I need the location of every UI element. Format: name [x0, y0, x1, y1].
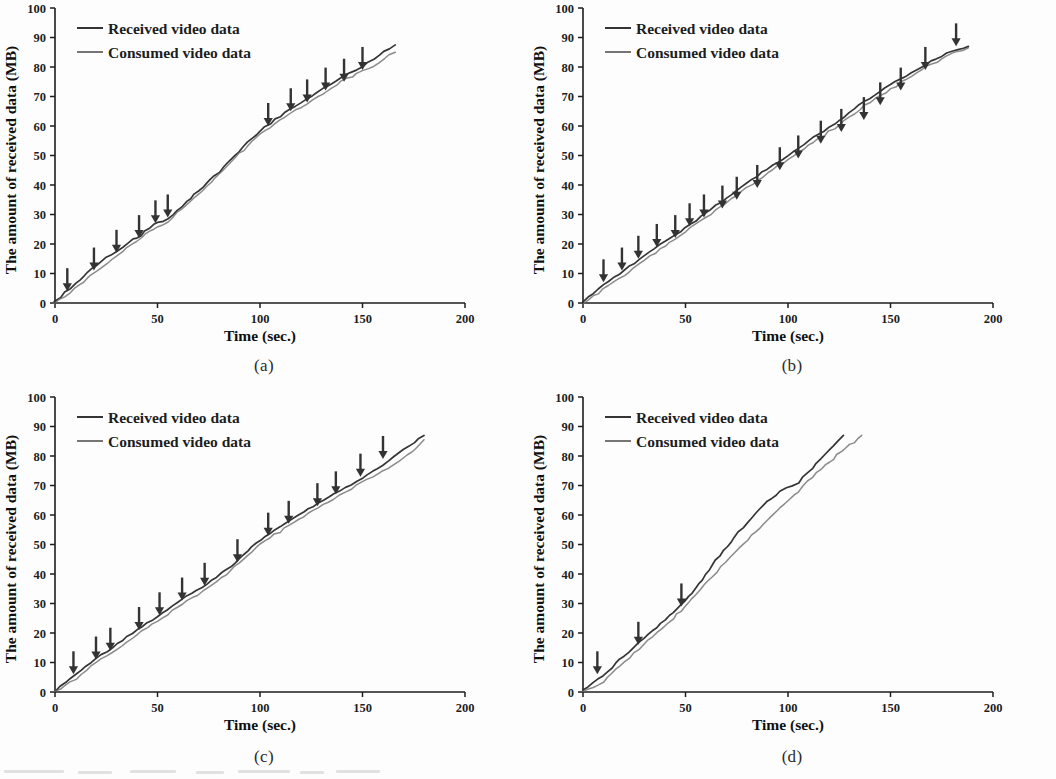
- svg-text:0: 0: [40, 297, 46, 311]
- svg-text:100: 100: [251, 312, 270, 326]
- svg-text:20: 20: [562, 627, 575, 641]
- svg-text:10: 10: [34, 656, 47, 670]
- svg-text:60: 60: [562, 509, 575, 523]
- svg-text:80: 80: [34, 450, 47, 464]
- svg-text:100: 100: [555, 391, 574, 405]
- svg-text:60: 60: [562, 120, 575, 134]
- svg-text:70: 70: [562, 90, 575, 104]
- svg-text:30: 30: [562, 597, 575, 611]
- svg-text:90: 90: [34, 420, 47, 434]
- svg-text:0: 0: [580, 701, 586, 715]
- plot-area-a: 1009080706050403020100050100150200Receiv…: [0, 0, 528, 356]
- svg-text:90: 90: [562, 420, 575, 434]
- svg-text:20: 20: [562, 238, 575, 252]
- svg-text:Consumed video data: Consumed video data: [636, 433, 779, 450]
- svg-text:50: 50: [679, 701, 692, 715]
- svg-text:60: 60: [34, 509, 47, 523]
- svg-text:80: 80: [34, 61, 47, 75]
- chart-panel-c: The amount of received data (MB) Time (s…: [0, 389, 528, 779]
- svg-text:70: 70: [34, 479, 47, 493]
- svg-text:200: 200: [456, 312, 475, 326]
- svg-text:200: 200: [456, 701, 475, 715]
- svg-text:50: 50: [34, 149, 47, 163]
- svg-text:100: 100: [251, 701, 270, 715]
- panel-caption-a: (a): [0, 356, 528, 376]
- svg-text:Consumed video data: Consumed video data: [636, 44, 779, 61]
- svg-text:Received video data: Received video data: [108, 409, 240, 426]
- svg-text:150: 150: [881, 312, 900, 326]
- svg-text:20: 20: [34, 627, 47, 641]
- svg-text:100: 100: [555, 2, 574, 16]
- svg-text:0: 0: [580, 312, 586, 326]
- svg-text:0: 0: [568, 686, 574, 700]
- svg-text:100: 100: [779, 701, 798, 715]
- svg-text:10: 10: [562, 656, 575, 670]
- svg-text:150: 150: [881, 701, 900, 715]
- svg-text:60: 60: [34, 120, 47, 134]
- svg-text:90: 90: [34, 31, 47, 45]
- svg-text:50: 50: [151, 312, 164, 326]
- svg-text:Received video data: Received video data: [108, 20, 240, 37]
- plot-area-d: 1009080706050403020100050100150200Receiv…: [528, 389, 1056, 745]
- svg-text:10: 10: [34, 267, 47, 281]
- svg-text:40: 40: [562, 179, 575, 193]
- svg-text:50: 50: [679, 312, 692, 326]
- svg-text:100: 100: [27, 2, 46, 16]
- svg-text:0: 0: [52, 701, 58, 715]
- figure-grid: The amount of received data (MB) Time (s…: [0, 0, 1056, 779]
- svg-text:40: 40: [34, 568, 47, 582]
- svg-text:70: 70: [562, 479, 575, 493]
- svg-text:50: 50: [562, 538, 575, 552]
- svg-text:30: 30: [562, 208, 575, 222]
- svg-text:80: 80: [562, 450, 575, 464]
- svg-text:200: 200: [984, 312, 1003, 326]
- svg-text:Consumed video data: Consumed video data: [108, 433, 251, 450]
- panel-caption-d: (d): [528, 747, 1056, 767]
- svg-text:70: 70: [34, 90, 47, 104]
- svg-text:30: 30: [34, 208, 47, 222]
- svg-text:Received video data: Received video data: [636, 409, 768, 426]
- svg-text:90: 90: [562, 31, 575, 45]
- chart-panel-b: The amount of received data (MB) Time (s…: [528, 0, 1056, 389]
- chart-panel-d: The amount of received data (MB) Time (s…: [528, 389, 1056, 779]
- svg-text:0: 0: [568, 297, 574, 311]
- svg-text:40: 40: [562, 568, 575, 582]
- svg-text:80: 80: [562, 61, 575, 75]
- panel-caption-c: (c): [0, 747, 528, 767]
- svg-text:150: 150: [353, 701, 372, 715]
- svg-text:Received video data: Received video data: [636, 20, 768, 37]
- plot-area-b: 1009080706050403020100050100150200Receiv…: [528, 0, 1056, 356]
- svg-text:50: 50: [34, 538, 47, 552]
- svg-text:100: 100: [779, 312, 798, 326]
- svg-text:30: 30: [34, 597, 47, 611]
- chart-panel-a: The amount of received data (MB) Time (s…: [0, 0, 528, 389]
- svg-text:0: 0: [40, 686, 46, 700]
- svg-text:200: 200: [984, 701, 1003, 715]
- svg-text:Consumed video data: Consumed video data: [108, 44, 251, 61]
- svg-text:100: 100: [27, 391, 46, 405]
- svg-text:50: 50: [151, 701, 164, 715]
- svg-text:20: 20: [34, 238, 47, 252]
- svg-text:150: 150: [353, 312, 372, 326]
- plot-area-c: 1009080706050403020100050100150200Receiv…: [0, 389, 528, 745]
- svg-text:40: 40: [34, 179, 47, 193]
- panel-caption-b: (b): [528, 356, 1056, 376]
- svg-text:10: 10: [562, 267, 575, 281]
- svg-text:0: 0: [52, 312, 58, 326]
- svg-text:50: 50: [562, 149, 575, 163]
